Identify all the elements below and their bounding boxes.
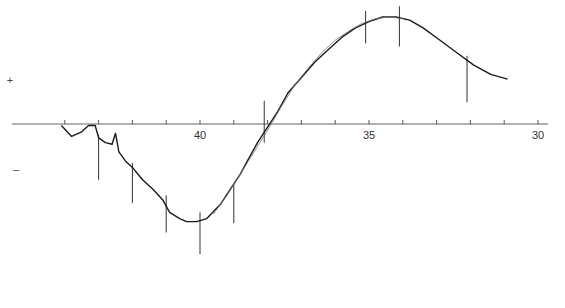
x-tick-label: 40	[194, 129, 206, 141]
x-axis-tick-labels: 403530	[194, 129, 544, 141]
x-tick-label: 35	[363, 129, 375, 141]
positive-marker: +	[7, 74, 13, 86]
x-axis-ticks	[65, 120, 538, 124]
waveform-chart: 403530 + –	[0, 0, 565, 308]
x-tick-label: 30	[532, 129, 544, 141]
spike-markers	[99, 6, 467, 254]
observed-trace-line	[61, 17, 507, 222]
data-series	[61, 17, 507, 222]
negative-marker: –	[13, 163, 20, 175]
model-fit-line	[214, 17, 403, 214]
